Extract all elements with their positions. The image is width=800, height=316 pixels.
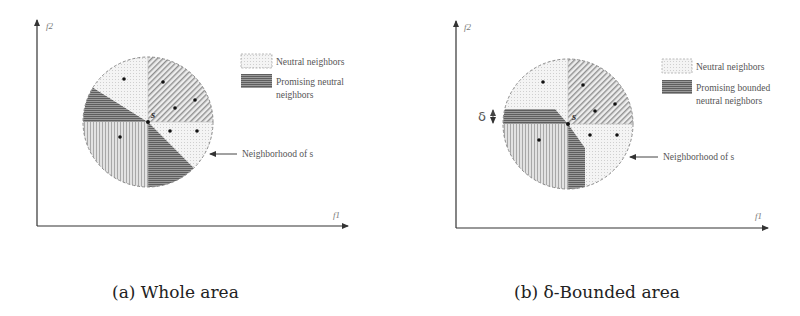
delta-label: δ [478,109,486,124]
sector-vertical [83,122,148,187]
legend-label-promising-line1: Promising neutral [276,77,344,87]
legend-swatch-promising [241,74,272,88]
panel-a: f2 f1 [37,20,348,226]
y-axis-label: f2 [464,22,472,32]
legend-label-promising-line2: neighbors [276,90,314,100]
figure: f2 f1 [0,0,800,316]
legend: Neutral neighbors Promising bounded neut… [662,59,770,106]
legend-swatch-promising [662,80,692,94]
legend-label-promising-line2: neutral neighbors [696,96,763,106]
x-axis-label: f1 [755,211,762,221]
caption-a: (a) Whole area [112,282,239,302]
sector-vertical [503,124,568,189]
panel-b: f2 f1 [456,21,770,228]
legend: Neutral neighbors Promising neutral neig… [241,54,345,100]
legend-label-promising-line1: Promising bounded [696,83,770,93]
center-label-s: s [150,108,155,120]
sector-diagonal [568,59,633,124]
sector-diagonal [148,57,213,122]
annotation-label: Neighborhood of s [663,152,735,162]
legend-label-neutral: Neutral neighbors [696,62,765,72]
legend-label-neutral: Neutral neighbors [276,57,345,67]
annotation-label: Neighborhood of s [242,149,314,159]
legend-swatch-neutral [241,54,272,68]
x-axis-label: f1 [333,210,340,220]
caption-b: (b) δ-Bounded area [514,282,680,302]
legend-swatch-neutral [662,59,692,73]
center-label-s: s [571,110,576,122]
y-axis-label: f2 [46,21,54,31]
